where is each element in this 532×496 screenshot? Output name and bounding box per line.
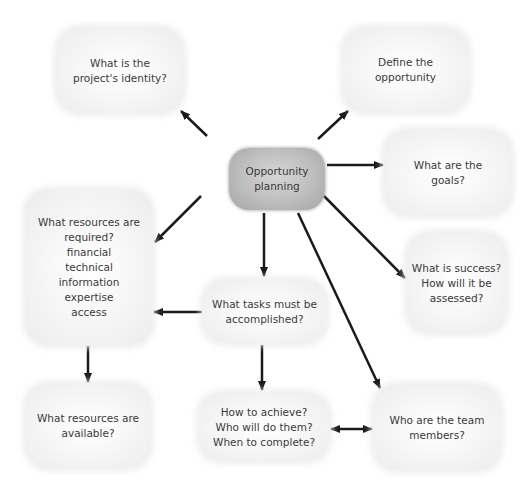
node-how-to-achieve: How to achieve? Who will do them? When t…	[199, 393, 329, 461]
node-goals: What are the goals?	[385, 130, 511, 215]
mind-map-canvas: What is the project's identity? Define t…	[0, 0, 532, 496]
arrow-center-to-define	[318, 111, 348, 139]
node-label: What are the goals?	[414, 158, 482, 188]
node-team-members: Who are the team members?	[374, 385, 500, 470]
node-label: What is success? How will it be assessed…	[412, 261, 501, 306]
node-label: How to achieve? Who will do them? When t…	[213, 405, 315, 450]
node-label: What resources are required? financial t…	[38, 215, 140, 320]
node-success: What is success? How will it be assessed…	[407, 233, 506, 333]
node-tasks: What tasks must be accomplished?	[203, 280, 326, 343]
node-label: Define the opportunity	[375, 55, 436, 85]
node-resources-available: What resources are available?	[26, 384, 150, 468]
arrow-center-to-identity	[181, 111, 207, 136]
node-label: Opportunity planning	[245, 164, 308, 194]
node-label: What resources are available?	[37, 411, 139, 441]
node-label: What is the project's identity?	[73, 56, 167, 86]
node-opportunity-planning: Opportunity planning	[229, 148, 325, 210]
arrow-center-to-resources-required	[155, 196, 201, 242]
node-label: Who are the team members?	[390, 413, 485, 443]
node-label: What tasks must be accomplished?	[212, 297, 317, 327]
node-define-opportunity: Define the opportunity	[343, 28, 468, 112]
node-resources-required: What resources are required? financial t…	[26, 190, 152, 345]
node-project-identity: What is the project's identity?	[57, 28, 183, 113]
